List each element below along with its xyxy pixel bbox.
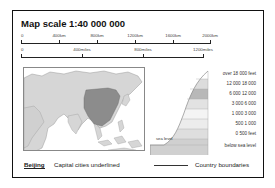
elevation-band-label: 3 000 6 000	[232, 101, 256, 106]
locator-map	[23, 67, 145, 151]
miles-tick	[143, 54, 144, 58]
km-tick	[59, 40, 60, 44]
km-tick-label: 400km	[52, 33, 65, 38]
country-boundaries-note: Country boundaries	[195, 161, 249, 168]
miles-tick	[82, 54, 83, 58]
miles-tick	[203, 54, 204, 58]
capital-example: Beijing	[24, 161, 45, 169]
elevation-band-label: 12 000 18 000	[227, 81, 256, 86]
miles-tick	[21, 54, 22, 58]
km-tick	[21, 40, 22, 44]
km-tick-label: 1200km	[127, 33, 143, 38]
km-tick-label: 2000km	[202, 33, 218, 38]
km-tick-label: 0	[21, 33, 23, 38]
miles-tick-label: 800miles	[134, 47, 152, 52]
miles-tick-label: 400miles	[73, 47, 91, 52]
elevation-legend: sea level over 18 000 feet 12 000 18 000…	[150, 69, 262, 155]
km-tick	[173, 40, 174, 44]
elevation-band-label: 6 000 12 000	[229, 91, 256, 96]
elevation-band-label: 0 500 feet	[236, 131, 256, 136]
elevation-band-label: 1 000 3 000	[232, 111, 256, 116]
sea-level-label: sea level	[156, 136, 173, 141]
km-tick	[97, 40, 98, 44]
miles-scale-line	[21, 57, 204, 58]
km-tick-label: 1600km	[165, 33, 181, 38]
elevation-band-label: 500 1 000	[236, 121, 256, 126]
miles-tick-label: 0	[21, 47, 23, 52]
elevation-band-label: below sea level	[225, 143, 256, 148]
elevation-band-label: over 18 000 feet	[223, 71, 256, 76]
km-scale-line	[21, 43, 211, 44]
km-tick-label: 800km	[90, 33, 103, 38]
asia-map-icon	[24, 68, 145, 151]
capital-cities-note: Capital cities underlined	[54, 161, 120, 168]
map-scale-title: Map scale 1:40 000 000	[21, 18, 125, 29]
km-scale-bar: 0 400km 800km 1200km 1600km 2000km	[21, 33, 211, 45]
miles-scale-bar: 0 400miles 800miles 1200miles	[21, 47, 211, 59]
miles-tick-label: 1200miles	[193, 47, 213, 52]
map-scale-panel: Map scale 1:40 000 000 0 400km 800km 120…	[12, 10, 264, 178]
km-tick	[135, 40, 136, 44]
km-tick	[210, 40, 211, 44]
map-key-footer: Beijing Capital cities underlined Countr…	[21, 160, 261, 172]
boundary-line-symbol	[154, 165, 188, 166]
